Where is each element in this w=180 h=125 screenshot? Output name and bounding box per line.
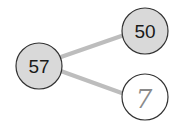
part-2-handwritten-value: 7 — [136, 84, 153, 114]
whole-value: 57 — [28, 56, 49, 77]
whole-circle: 57 — [16, 43, 62, 89]
number-bond-diagram: 57 50 7 — [0, 0, 180, 125]
part-1-circle: 50 — [122, 8, 168, 54]
part-1-value: 50 — [134, 21, 155, 42]
connector-whole-to-part-2 — [58, 70, 130, 96]
connector-whole-to-part-1 — [58, 33, 130, 58]
part-2-circle[interactable]: 7 — [122, 74, 168, 120]
